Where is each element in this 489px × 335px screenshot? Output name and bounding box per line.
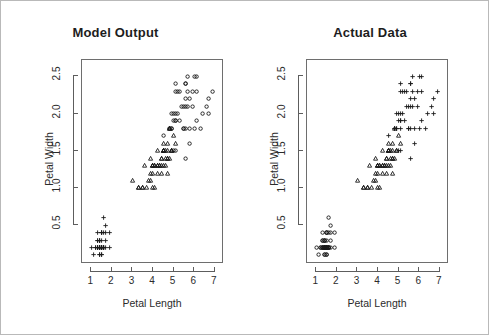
data-point-circle [169,126,174,131]
data-point-circle [324,245,329,250]
data-point-circle [175,111,180,116]
data-point-circle [177,118,182,123]
y-axis-tick [73,75,78,76]
data-point-plus [101,230,106,235]
data-point-plus [99,252,104,257]
data-point-triangle [163,156,168,161]
data-point-circle [171,118,176,123]
data-point-circle [183,96,188,101]
data-point-triangle [394,148,399,153]
data-point-plus [99,230,104,235]
data-point-triangle [382,163,387,168]
data-point-triangle [157,163,162,168]
data-point-triangle [150,163,155,168]
y-axis-tick [73,187,78,188]
data-point-circle [322,245,327,250]
data-point-circle [324,238,329,243]
data-point-triangle [148,156,153,161]
data-point-triangle [152,163,157,168]
data-point-triangle [173,141,178,146]
data-point-plus [398,111,403,116]
data-point-circle [320,245,325,250]
data-point-triangle [169,148,174,153]
data-point-plus [99,245,104,250]
data-point-plus [95,245,100,250]
data-point-triangle [394,148,399,153]
data-point-plus [99,245,104,250]
data-point-circle [187,141,192,146]
data-point-circle [171,148,176,153]
x-axis-tick-label: 4 [144,275,160,286]
data-point-circle [320,238,325,243]
data-point-plus [404,104,409,109]
data-point-triangle [161,148,166,153]
data-point-circle [200,111,205,116]
data-point-plus [408,81,413,86]
data-point-circle [204,104,209,109]
data-point-circle [326,245,331,250]
data-point-triangle [152,163,157,168]
x-axis-tick-label: 2 [103,275,119,286]
data-point-triangle [375,185,380,190]
data-point-circle [161,133,166,138]
data-point-triangle [161,148,166,153]
data-point-circle [181,126,186,131]
data-point-circle [322,245,327,250]
data-point-triangle [155,163,160,168]
data-point-triangle [388,163,393,168]
x-axis-tick-label: 1 [82,275,98,286]
data-point-circle [322,245,327,250]
data-point-triangle [380,148,385,153]
data-point-triangle [398,141,403,146]
data-point-circle [190,89,195,94]
data-point-circle [171,111,176,116]
data-point-plus [95,245,100,250]
data-point-triangle [388,148,393,153]
data-point-circle [328,238,333,243]
data-point-circle [326,245,331,250]
data-point-plus [408,156,413,161]
data-point-triangle [167,126,172,131]
data-point-triangle [130,178,135,183]
data-point-triangle [390,156,395,161]
data-point-circle [324,252,329,257]
data-point-circle [169,111,174,116]
data-point-plus [417,126,422,131]
data-point-triangle [165,148,170,153]
x-axis-tick-label: 4 [369,275,385,286]
data-point-plus [93,245,98,250]
data-point-circle [173,89,178,94]
data-point-triangle [167,126,172,131]
data-point-circle [322,245,327,250]
data-point-plus [398,148,403,153]
data-point-triangle [171,133,176,138]
data-point-circle [320,230,325,235]
data-point-circle [192,74,197,79]
data-point-plus [406,126,411,131]
data-point-plus [103,245,108,250]
data-point-triangle [384,163,389,168]
plot-area-model-output [81,59,223,263]
data-point-triangle [377,163,382,168]
data-point-triangle [150,163,155,168]
data-point-plus [419,74,424,79]
data-point-circle [173,111,178,116]
data-point-triangle [161,148,166,153]
data-point-triangle [371,178,376,183]
data-point-triangle [380,171,385,176]
data-point-circle [322,245,327,250]
data-point-triangle [386,141,391,146]
x-axis-tick-label: 6 [410,275,426,286]
panel-title-model-output: Model Output [0,25,238,40]
y-axis-tick [298,113,303,114]
data-point-circle [167,126,172,131]
data-point-plus [97,238,102,243]
data-point-circle [328,245,333,250]
data-point-plus [89,245,94,250]
data-point-circle [320,245,325,250]
chart-panel-model-output: Model Output 0.51.01.52.02.51234567Petal… [1,1,246,335]
data-point-plus [95,238,100,243]
data-point-plus [99,238,104,243]
data-point-triangle [386,148,391,153]
data-point-plus [101,215,106,220]
